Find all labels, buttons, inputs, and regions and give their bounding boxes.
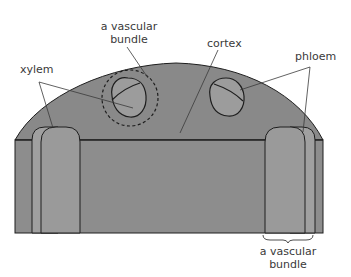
label-line: bundle (255, 258, 321, 271)
right-vascular-bundle (265, 127, 315, 233)
label-vascular-bundle-bottom: a vascular bundle (255, 245, 321, 271)
right-phloem-strip (265, 127, 305, 233)
label-vascular-bundle-top: a vascular bundle (96, 20, 162, 46)
left-phloem-strip (41, 127, 80, 233)
label-line: a vascular (96, 20, 162, 33)
stem-diagram (0, 0, 351, 277)
label-cortex: cortex (207, 37, 242, 50)
label-line: bundle (96, 33, 162, 46)
left-vascular-bundle (32, 127, 80, 233)
label-line: a vascular (255, 245, 321, 258)
right-cross-bundle (210, 78, 244, 116)
label-phloem: phloem (295, 50, 336, 63)
bundle-brace (263, 235, 313, 243)
label-xylem: xylem (20, 63, 54, 76)
